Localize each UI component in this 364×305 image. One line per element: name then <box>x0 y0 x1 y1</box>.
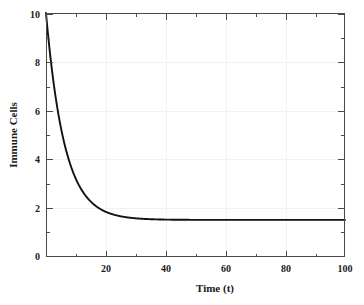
y-tick-label-0: 0 <box>35 251 40 262</box>
y-axis-title: Immune Cells <box>7 101 19 167</box>
y-tick-label-8: 8 <box>35 57 40 68</box>
immune-cells-line-chart: 0 2 4 6 8 10 20 40 60 80 100 Time (t) Im… <box>0 0 364 305</box>
x-tick-label-60: 60 <box>221 263 231 274</box>
x-tick-label-80: 80 <box>281 263 291 274</box>
x-tick-label-40: 40 <box>161 263 171 274</box>
y-tick-label-6: 6 <box>35 106 40 117</box>
x-tick-label-20: 20 <box>101 263 111 274</box>
x-tick-label-100: 100 <box>338 263 353 274</box>
x-axis-title: Time (t) <box>196 282 234 295</box>
y-tick-label-2: 2 <box>35 203 40 214</box>
chart-figure: 0 2 4 6 8 10 20 40 60 80 100 Time (t) Im… <box>0 0 364 305</box>
y-tick-label-10: 10 <box>30 9 40 20</box>
y-tick-label-4: 4 <box>35 154 40 165</box>
